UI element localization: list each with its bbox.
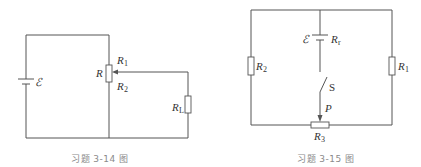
R2-label: R	[116, 80, 124, 92]
caption-3-14: 习题 3-14 图	[71, 152, 129, 165]
R1-label: R	[116, 54, 124, 66]
R3-label: R	[313, 130, 321, 142]
rheostat-R	[106, 65, 112, 82]
R3-subscript: 3	[321, 135, 325, 144]
P-label: P	[324, 102, 332, 114]
R-label: R	[95, 67, 103, 79]
wire-top	[251, 10, 392, 57]
slider-arrow-icon	[112, 70, 118, 75]
caption-3-15: 习题 3-15 图	[297, 152, 355, 165]
R2-subscript: 2	[263, 65, 267, 74]
resistor-R2	[248, 57, 254, 75]
wire-bottom	[26, 84, 188, 138]
resistor-RL	[185, 96, 191, 113]
figure-3-15-circuit	[248, 10, 395, 128]
R2-label: R	[255, 60, 263, 72]
figure-3-15-labels: ℰ R r R 2 R 1 S P R 3	[255, 33, 409, 144]
emf-label: ℰ	[35, 76, 43, 88]
RL-label: R	[171, 101, 179, 113]
emf-label: ℰ	[302, 33, 310, 45]
switch-S	[320, 77, 327, 92]
R1-label: R	[397, 60, 405, 72]
Rr-label: R	[330, 33, 338, 45]
R1-subscript: 1	[124, 59, 128, 68]
slider-P-arrow-icon	[318, 115, 323, 122]
resistor-R3	[311, 122, 329, 128]
figure-3-14-circuit	[18, 35, 191, 138]
R1-subscript: 1	[405, 65, 409, 74]
R2-subscript: 2	[124, 85, 128, 94]
Rr-subscript: r	[338, 38, 341, 47]
circuit-diagrams: ℰ R R 1 R 2 R L ℰ R r R 2 R	[0, 0, 421, 167]
RL-subscript: L	[179, 106, 184, 115]
S-label: S	[329, 81, 335, 93]
resistor-R1	[389, 57, 395, 75]
